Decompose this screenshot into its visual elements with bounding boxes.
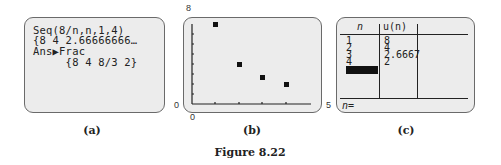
x-axis bbox=[192, 102, 311, 104]
column-divider-2 bbox=[417, 24, 418, 99]
caption-b: (b) bbox=[243, 124, 261, 137]
header-divider bbox=[340, 34, 468, 35]
column-header-u-n: u(n) bbox=[383, 23, 407, 31]
column-header-n: n bbox=[357, 23, 363, 31]
data-point bbox=[260, 75, 265, 80]
table-cursor-highlight[interactable] bbox=[346, 66, 378, 74]
column-divider-1 bbox=[379, 24, 380, 99]
data-point bbox=[213, 22, 218, 27]
data-point bbox=[284, 82, 289, 87]
calculator-table-screen: n u(n) 1 2 3 4 8 4 2.6667 2 n= bbox=[336, 17, 475, 113]
entry-divider bbox=[340, 98, 468, 99]
data-point bbox=[237, 62, 242, 67]
entry-prompt: n= bbox=[342, 102, 354, 110]
caption-c: (c) bbox=[397, 124, 414, 137]
table-cell-n: 4 bbox=[346, 58, 352, 66]
y-axis bbox=[192, 24, 194, 104]
figure-title: Figure 8.22 bbox=[214, 146, 285, 159]
table-cell-u: 2 bbox=[384, 58, 390, 66]
data-points bbox=[213, 22, 289, 87]
